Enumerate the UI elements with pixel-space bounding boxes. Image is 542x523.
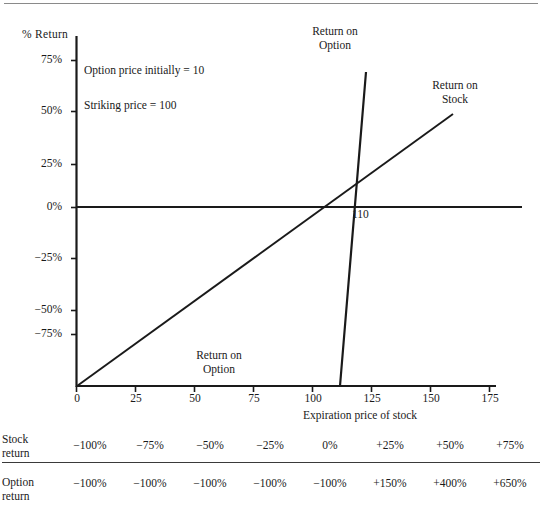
series-label-option-top-line2: Option xyxy=(319,39,351,51)
cell-option-7: +650% xyxy=(480,463,540,503)
series-label-stock-line1: Return on xyxy=(432,79,478,91)
series-label-option-top: Return on Option xyxy=(290,24,380,52)
row-header-option-return-line1: Option xyxy=(2,475,60,489)
returns-table: Stock return −100% −75% −50% −25% 0% +25… xyxy=(2,430,540,503)
chart-canvas xyxy=(0,0,542,410)
table-row: Stock return −100% −75% −50% −25% 0% +25… xyxy=(2,430,540,463)
x-tick-label-75: 75 xyxy=(234,392,274,404)
x-tick-label-25: 25 xyxy=(116,392,156,404)
series-label-option-bottom-line2: Option xyxy=(203,363,235,375)
cell-stock-6: +50% xyxy=(420,430,480,463)
x-tick-label-175: 175 xyxy=(470,392,510,404)
breakeven-point-label: 110 xyxy=(352,208,369,220)
row-header-stock-return-line1: Stock xyxy=(2,432,60,446)
option-price-note: Option price initially = 10 xyxy=(84,64,204,76)
cell-stock-4: 0% xyxy=(300,430,360,463)
cell-stock-5: +25% xyxy=(360,430,420,463)
cell-option-5: +150% xyxy=(360,463,420,503)
y-tick-label-neg25: −25% xyxy=(10,251,62,263)
cell-option-1: −100% xyxy=(120,463,180,503)
cell-stock-7: +75% xyxy=(480,430,540,463)
y-tick-label-75: 75% xyxy=(10,53,62,65)
series-label-option-top-line1: Return on xyxy=(312,25,358,37)
cell-stock-2: −50% xyxy=(180,430,240,463)
x-tick-label-50: 50 xyxy=(175,392,215,404)
row-header-option-return-line2: return xyxy=(2,489,60,503)
cell-option-3: −100% xyxy=(240,463,300,503)
x-tick-label-0: 0 xyxy=(57,392,97,404)
series-label-stock: Return on Stock xyxy=(410,78,500,106)
row-header-stock-return-line2: return xyxy=(2,446,60,460)
table-row: Option return −100% −100% −100% −100% −1… xyxy=(2,463,540,503)
y-tick-label-neg50: −50% xyxy=(10,303,62,315)
series-label-stock-line2: Stock xyxy=(442,93,468,105)
cell-stock-3: −25% xyxy=(240,430,300,463)
y-tick-label-25: 25% xyxy=(10,157,62,169)
striking-price-note: Striking price = 100 xyxy=(84,99,176,111)
x-tick-label-125: 125 xyxy=(352,392,392,404)
y-tick-label-50: 50% xyxy=(10,104,62,116)
row-header-stock-return: Stock return xyxy=(2,430,60,463)
return-chart: % Return Expiration price of stock 75% 5… xyxy=(0,0,542,410)
y-tick-label-0: 0% xyxy=(10,200,62,212)
row-header-option-return: Option return xyxy=(2,463,60,503)
cell-option-6: +400% xyxy=(420,463,480,503)
series-label-option-bottom-line1: Return on xyxy=(196,349,242,361)
series-line-option xyxy=(77,72,366,386)
x-axis-title: Expiration price of stock xyxy=(303,409,417,421)
cell-option-4: −100% xyxy=(300,463,360,503)
cell-option-0: −100% xyxy=(60,463,120,503)
x-tick-label-100: 100 xyxy=(293,392,333,404)
series-line-stock xyxy=(77,114,453,386)
y-axis-title: % Return xyxy=(22,28,68,40)
cell-stock-0: −100% xyxy=(60,430,120,463)
series-label-option-bottom: Return on Option xyxy=(167,348,271,376)
cell-stock-1: −75% xyxy=(120,430,180,463)
y-tick-label-neg75: −75% xyxy=(10,327,62,339)
x-tick-label-150: 150 xyxy=(411,392,451,404)
cell-option-2: −100% xyxy=(180,463,240,503)
